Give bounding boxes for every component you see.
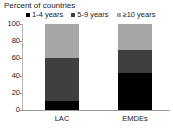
stacked-bar-chart: Percent of countries 1-4 years 5-9 years… — [0, 0, 173, 129]
chart-legend: 1-4 years 5-9 years ≥10 years — [26, 11, 155, 19]
legend-label-1-4-years: 1-4 years — [32, 11, 63, 19]
bar-emdes — [118, 24, 152, 110]
plot-area — [22, 24, 170, 110]
legend-item-1-4-years: 1-4 years — [26, 11, 63, 19]
bar-segment-emdes-1 — [118, 50, 152, 73]
legend-swatch-5-9-years — [71, 13, 75, 17]
x-axis-line — [22, 110, 170, 111]
bar-segment-lac-2 — [45, 24, 79, 58]
bar-segment-emdes-2 — [118, 24, 152, 50]
legend-label-10-plus-years: ≥10 years — [123, 11, 156, 19]
bar-segment-lac-0 — [45, 101, 79, 110]
bar-segment-lac-1 — [45, 58, 79, 102]
bar-lac — [45, 24, 79, 110]
bar-segment-emdes-0 — [118, 73, 152, 110]
legend-item-10-plus-years: ≥10 years — [117, 11, 156, 19]
legend-swatch-10-plus-years — [117, 13, 121, 17]
x-tick-label-lac: LAC — [55, 114, 70, 123]
legend-swatch-1-4-years — [26, 13, 30, 17]
legend-item-5-9-years: 5-9 years — [71, 11, 108, 19]
y-axis: 100 80 60 40 20 0 — [0, 0, 20, 129]
x-tick-label-emdes: EMDEs — [122, 114, 147, 123]
legend-label-5-9-years: 5-9 years — [77, 11, 108, 19]
